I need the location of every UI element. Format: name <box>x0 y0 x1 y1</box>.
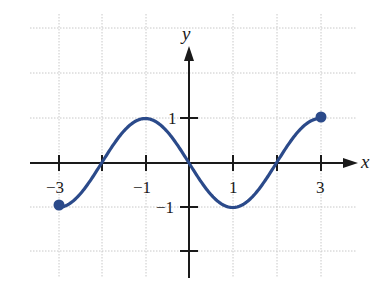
x-axis-label: x <box>360 151 370 172</box>
y-axis-label: y <box>180 23 191 44</box>
x-tick-label-m3: −3 <box>46 178 64 197</box>
x-tick-label-1: 1 <box>229 178 238 197</box>
y-tick-label-m1: −1 <box>156 198 174 217</box>
x-tick-label-m1: −1 <box>133 178 151 197</box>
function-graph: x y −3 −1 1 3 1 −1 <box>0 0 381 296</box>
x-axis-arrow-icon <box>343 158 358 168</box>
left-endpoint-dot <box>54 200 65 211</box>
grid <box>30 14 356 278</box>
right-endpoint-dot <box>316 112 327 123</box>
x-tick-label-3: 3 <box>316 178 325 197</box>
y-tick-label-1: 1 <box>168 109 177 128</box>
y-axis-arrow-icon <box>184 46 194 61</box>
